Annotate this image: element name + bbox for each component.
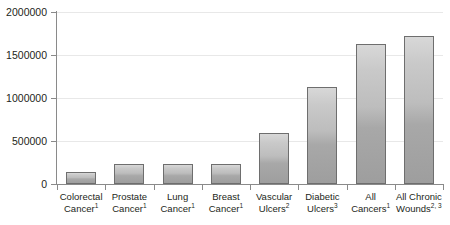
bar-chart: 2000000150000010000005000000 ColorectalC… bbox=[0, 0, 450, 225]
footnote-marker: 1 bbox=[191, 201, 195, 208]
footnote-marker: 1 bbox=[239, 201, 243, 208]
bar bbox=[356, 44, 386, 184]
x-tick-mark bbox=[443, 185, 444, 190]
x-tick-mark bbox=[395, 185, 396, 190]
x-tick-mark bbox=[298, 185, 299, 190]
x-axis-label: VascularUlcers2 bbox=[250, 191, 298, 214]
x-axis-label: ProstateCancer1 bbox=[105, 191, 153, 214]
x-axis-label: ColorectalCancer1 bbox=[57, 191, 105, 214]
footnote-marker: 1 bbox=[387, 201, 391, 208]
footnote-marker: 3 bbox=[334, 201, 338, 208]
x-tick-mark bbox=[347, 185, 348, 190]
gridline bbox=[57, 12, 443, 13]
footnote-marker: 1 bbox=[143, 201, 147, 208]
bar bbox=[404, 36, 434, 184]
x-axis-label: BreastCancer1 bbox=[202, 191, 250, 214]
bar bbox=[211, 164, 241, 184]
footnote-marker: 2, 3 bbox=[431, 201, 442, 208]
y-tick-label: 2000000 bbox=[0, 7, 47, 18]
bar bbox=[66, 172, 96, 184]
plot-area bbox=[57, 12, 443, 184]
x-tick-mark bbox=[57, 185, 58, 190]
y-axis-line bbox=[56, 11, 57, 185]
x-axis-label: DiabeticUlcers3 bbox=[298, 191, 346, 214]
x-axis-label: All ChronicWounds2, 3 bbox=[395, 191, 443, 214]
x-axis-label: All Cancers1 bbox=[347, 191, 395, 214]
bar bbox=[307, 87, 337, 184]
y-tick-label: 0 bbox=[0, 179, 47, 190]
footnote-marker: 1 bbox=[95, 201, 99, 208]
bar bbox=[163, 164, 193, 184]
y-tick-label: 1000000 bbox=[0, 93, 47, 104]
x-tick-mark bbox=[250, 185, 251, 190]
x-tick-mark bbox=[105, 185, 106, 190]
bar bbox=[259, 133, 289, 184]
x-tick-mark bbox=[154, 185, 155, 190]
bar bbox=[114, 164, 144, 184]
footnote-marker: 2 bbox=[286, 201, 290, 208]
x-tick-mark bbox=[202, 185, 203, 190]
x-axis-label: Lung Cancer1 bbox=[154, 191, 202, 214]
y-tick-label: 500000 bbox=[0, 136, 47, 147]
y-tick-label: 1500000 bbox=[0, 50, 47, 61]
